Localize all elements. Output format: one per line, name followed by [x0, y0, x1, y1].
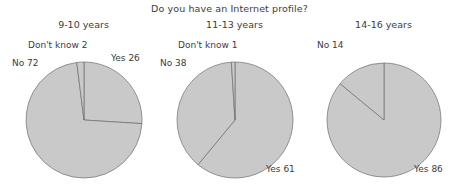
pie-svg-11-13-years [158, 0, 311, 191]
pie-label-yes: Yes 86 [414, 164, 443, 174]
pie-panel-14-16-years: 14-16 years Yes 86 No 14 [307, 0, 459, 191]
pie-svg-9-10-years [7, 0, 160, 191]
pie-chart-figure: Do you have an Internet profile? 9-10 ye… [0, 0, 459, 191]
pie-label-yes: Yes 26 [111, 53, 140, 63]
pie-label-no: No 14 [317, 40, 344, 50]
pie-panel-11-13-years: 11-13 years Yes 61 No 38 Don't know 1 [158, 0, 311, 191]
pie-label-no: No 72 [12, 58, 39, 68]
pie-panel-9-10-years: 9-10 years Yes 26 No 72 Don't know 2 [7, 0, 160, 191]
pie-label-no: No 38 [160, 58, 187, 68]
pie-label-dont-know: Don't know 2 [28, 40, 87, 50]
pie-slice-yes [84, 62, 142, 124]
pie-svg-14-16-years [307, 0, 459, 191]
pie-label-yes: Yes 61 [266, 164, 295, 174]
pie-label-dont-know: Don't know 1 [178, 40, 237, 50]
